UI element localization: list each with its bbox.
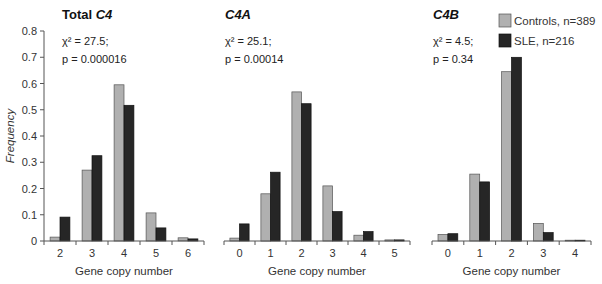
bar-controls bbox=[114, 85, 124, 241]
x-tick-label: 2 bbox=[508, 247, 514, 259]
legend: Controls, n=389 SLE, n=216 bbox=[499, 14, 596, 47]
y-tick-label: 0.3 bbox=[22, 156, 37, 168]
x-tick-label: 3 bbox=[329, 247, 335, 259]
bar-sle bbox=[271, 172, 281, 241]
y-tick-label: 0.7 bbox=[22, 51, 37, 63]
x-tick-label: 2 bbox=[298, 247, 304, 259]
panel-c4b: C4Bχ² = 4.5;p = 0.3401234Gene copy numbe… bbox=[432, 7, 591, 277]
bar-sle bbox=[480, 182, 490, 241]
y-tick-label: 0.6 bbox=[22, 78, 37, 90]
p-value-stat: p = 0.34 bbox=[433, 53, 473, 65]
x-tick-label: 4 bbox=[121, 247, 127, 259]
bar-controls bbox=[178, 238, 188, 241]
bar-controls bbox=[146, 213, 156, 241]
x-tick-label: 4 bbox=[360, 247, 366, 259]
y-tick-label: 0.4 bbox=[22, 130, 37, 142]
panel-total-c4: Total C4χ² = 27.5;p = 0.00001623456Gene … bbox=[44, 7, 204, 277]
panel-c4a: C4Aχ² = 25.1;p = 0.00014012345Gene copy … bbox=[224, 7, 410, 277]
x-tick-label: 1 bbox=[267, 247, 273, 259]
p-value-stat: p = 0.00014 bbox=[225, 53, 283, 65]
x-axis-label: Gene copy number bbox=[463, 265, 561, 277]
chi-square-stat: χ² = 27.5; bbox=[62, 35, 108, 47]
y-axis-label: Frequency bbox=[4, 108, 16, 164]
bar-controls bbox=[82, 170, 92, 241]
y-tick-label: 0.5 bbox=[22, 104, 37, 116]
y-tick-label: 0.1 bbox=[22, 209, 37, 221]
x-tick-label: 3 bbox=[540, 247, 546, 259]
bar-sle bbox=[60, 217, 70, 241]
bar-controls bbox=[533, 223, 543, 241]
bar-sle bbox=[92, 156, 102, 241]
legend-label-sle: SLE, n=216 bbox=[514, 35, 574, 47]
chi-square-stat: χ² = 4.5; bbox=[433, 35, 473, 47]
x-tick-label: 6 bbox=[185, 247, 191, 259]
x-tick-label: 0 bbox=[445, 247, 451, 259]
bar-controls bbox=[438, 234, 448, 241]
bar-controls bbox=[50, 237, 60, 241]
y-tick-label: 0.2 bbox=[22, 183, 37, 195]
bar-sle bbox=[512, 57, 522, 241]
bar-sle bbox=[333, 212, 343, 241]
y-axis: 00.10.20.30.40.50.60.70.8 bbox=[22, 25, 44, 247]
legend-label-controls: Controls, n=389 bbox=[514, 15, 596, 27]
panel-title: Total C4 bbox=[62, 7, 113, 22]
bar-controls bbox=[292, 92, 302, 241]
legend-swatch-controls bbox=[499, 14, 511, 27]
p-value-stat: p = 0.000016 bbox=[62, 53, 127, 65]
chi-square-stat: χ² = 25.1; bbox=[225, 35, 271, 47]
x-tick-label: 0 bbox=[236, 247, 242, 259]
panel-title: C4A bbox=[225, 7, 251, 22]
x-tick-label: 2 bbox=[57, 247, 63, 259]
x-tick-label: 3 bbox=[89, 247, 95, 259]
bar-sle bbox=[448, 234, 458, 241]
x-axis-label: Gene copy number bbox=[268, 265, 366, 277]
y-tick-label: 0.8 bbox=[22, 25, 37, 37]
bar-sle bbox=[302, 104, 312, 241]
x-tick-label: 5 bbox=[391, 247, 397, 259]
bar-sle bbox=[543, 233, 553, 241]
legend-swatch-sle bbox=[499, 34, 511, 47]
y-tick-label: 0 bbox=[31, 235, 37, 247]
bar-controls bbox=[261, 194, 271, 241]
bar-controls bbox=[354, 235, 364, 241]
bar-controls bbox=[470, 174, 480, 241]
panel-title: C4B bbox=[433, 7, 459, 22]
bar-sle bbox=[240, 224, 250, 241]
bar-controls bbox=[502, 72, 512, 241]
x-axis-label: Gene copy number bbox=[75, 265, 173, 277]
bar-controls bbox=[323, 186, 333, 241]
bar-sle bbox=[156, 228, 166, 241]
x-tick-label: 5 bbox=[153, 247, 159, 259]
bar-sle bbox=[364, 232, 374, 241]
x-tick-label: 4 bbox=[572, 247, 578, 259]
bar-sle bbox=[124, 105, 134, 241]
figure: Frequency 00.10.20.30.40.50.60.70.8 Tota… bbox=[0, 0, 602, 284]
x-tick-label: 1 bbox=[477, 247, 483, 259]
